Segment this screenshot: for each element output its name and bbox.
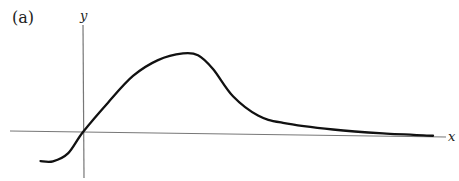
curve-line [41, 53, 434, 162]
panel-label: (a) [12, 8, 34, 27]
y-axis [83, 25, 84, 178]
x-axis-label: x [448, 129, 456, 144]
y-axis-label: y [79, 8, 88, 23]
curve-group [41, 53, 434, 162]
diagram: (a) y x [0, 0, 459, 181]
